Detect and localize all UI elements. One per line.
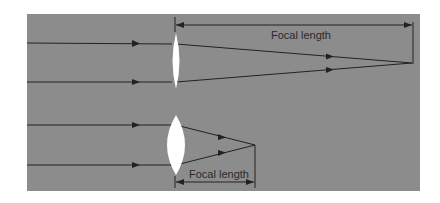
- lens-focal-length-diagram: Focal length Focal length: [0, 0, 440, 203]
- focal-length-label-thick: Focal length: [189, 168, 249, 180]
- focal-length-label-thin: Focal length: [271, 29, 331, 41]
- background-panel: [27, 14, 420, 191]
